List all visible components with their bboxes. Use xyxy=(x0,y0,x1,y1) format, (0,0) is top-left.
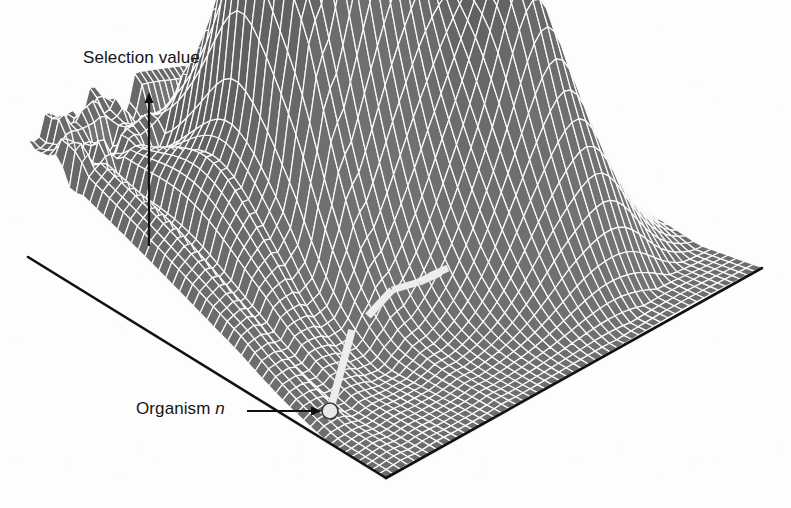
landscape-surface-canvas xyxy=(0,0,791,508)
fitness-landscape-figure: Selection value Organism n xyxy=(0,0,791,508)
organism-marker xyxy=(322,403,338,419)
organism-label-symbol: n xyxy=(215,399,225,418)
organism-point-marker xyxy=(322,403,338,419)
organism-label: Organism n xyxy=(136,399,225,419)
organism-label-prefix: Organism xyxy=(136,399,211,418)
selection-value-label: Selection value xyxy=(83,48,200,68)
